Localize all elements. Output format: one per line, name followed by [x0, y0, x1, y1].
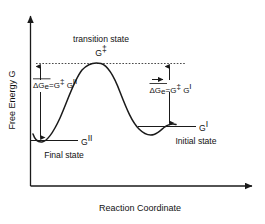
svg-text:ΔGe=G‡ GI: ΔGe=G‡ GI	[150, 82, 192, 96]
final-state-symbol-sup: II	[88, 133, 93, 143]
diagram-canvas: ΔGe=G‡ GII ΔGe=G‡ GI transition state G‡…	[0, 0, 265, 224]
transition-state-symbol-sup: ‡	[102, 44, 107, 54]
right-g-sup-I: I	[189, 82, 191, 91]
left-equals-g: =G	[49, 81, 60, 90]
final-state-symbol: GII	[81, 133, 92, 146]
final-state-label: Final state	[44, 150, 84, 160]
transition-state-label: transition state	[73, 34, 129, 44]
right-barrier-label: ΔGe=G‡ GI	[150, 82, 192, 96]
left-g-sup-II: II	[73, 77, 77, 86]
right-equals-g: =G	[166, 86, 177, 95]
x-axis-label: Reaction Coordinate	[99, 203, 181, 213]
axis-group	[31, 16, 253, 186]
free-energy-curve	[33, 63, 176, 142]
initial-state-symbol: GI	[199, 119, 208, 132]
left-barrier-label: ΔGe=G‡ GII	[33, 77, 77, 91]
y-axis-label: Free Energy G	[7, 70, 17, 129]
initial-state-label: Initial state	[175, 136, 216, 146]
initial-state-symbol-sup: I	[206, 119, 208, 129]
energy-diagram-figure: ΔGe=G‡ GII ΔGe=G‡ GI transition state G‡…	[0, 0, 265, 224]
svg-text:ΔGe=G‡ GII: ΔGe=G‡ GII	[33, 77, 77, 91]
transition-state-symbol: G‡	[95, 44, 107, 57]
